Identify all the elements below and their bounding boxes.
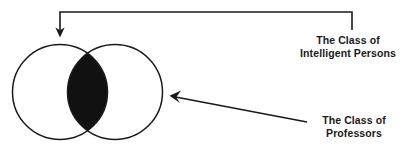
label-intelligent-persons-line2: Intelligent Persons [294,47,402,60]
diagonal-arrow-to-right-circle [170,91,308,122]
venn-diagram-figure: The Class of Intelligent Persons The Cla… [0,0,403,155]
label-intelligent-persons-line1: The Class of [294,34,402,47]
label-intelligent-persons: The Class of Intelligent Persons [294,34,402,59]
label-professors-line1: The Class of [308,114,400,127]
label-professors: The Class of Professors [308,114,400,139]
diagonal-arrowhead-icon [170,91,182,103]
label-professors-line2: Professors [308,127,400,140]
